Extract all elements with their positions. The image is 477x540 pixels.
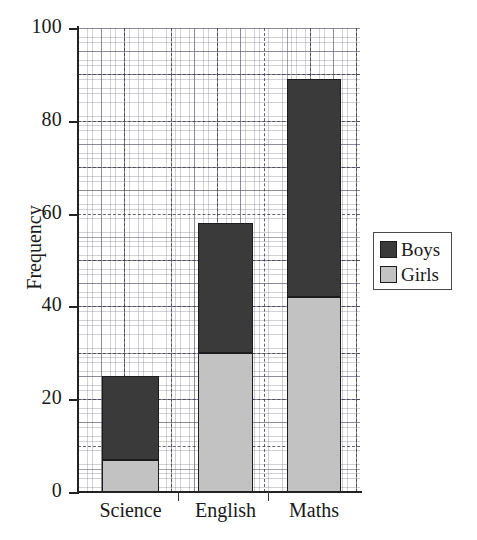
y-tick	[69, 121, 78, 123]
y-tick	[69, 214, 78, 216]
legend-item-girls: Girls	[380, 262, 451, 287]
gridline-h	[78, 74, 360, 75]
plot-area	[78, 28, 360, 492]
bar-segment-girls	[198, 353, 253, 492]
y-tick-label: 0	[0, 479, 62, 502]
legend-item-boys: Boys	[380, 237, 451, 262]
gridline-v	[264, 28, 265, 492]
y-tick	[69, 306, 78, 308]
y-tick-label: 100	[0, 15, 62, 38]
x-axis-label: Maths	[254, 499, 374, 522]
legend-label-girls: Girls	[401, 265, 439, 284]
bar-chart: 020406080100 ScienceEnglishMaths Frequen…	[0, 0, 477, 540]
bar-segment-boys	[287, 79, 341, 297]
y-tick	[69, 399, 78, 401]
y-tick-label: 20	[0, 386, 62, 409]
legend-label-boys: Boys	[401, 240, 440, 259]
y-axis-line	[77, 26, 79, 494]
legend-swatch-boys-icon	[380, 241, 397, 258]
legend-swatch-girls-icon	[380, 266, 397, 283]
bar-segment-boys	[198, 223, 253, 353]
y-tick	[69, 28, 78, 30]
bar-segment-boys	[102, 376, 159, 460]
y-tick	[69, 492, 78, 494]
gridline-v	[171, 28, 172, 492]
bar-segment-girls	[287, 297, 341, 492]
x-axis-line	[77, 491, 362, 493]
y-tick-label: 80	[0, 108, 62, 131]
legend: Boys Girls	[373, 232, 452, 290]
gridline-v	[356, 28, 357, 492]
y-axis-title: Frequency	[23, 168, 46, 328]
bar-segment-girls	[102, 460, 159, 492]
